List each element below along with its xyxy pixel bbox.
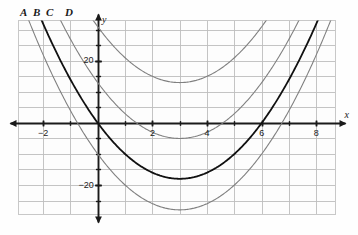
x-tick-label: 2 (150, 129, 155, 138)
y-tick-label: 20 (84, 56, 94, 65)
x-axis-arrow-right (340, 120, 347, 127)
graph-figure: ABCDxy−2246820−20 (0, 0, 358, 235)
parabola-plot-svg (0, 0, 358, 235)
y-axis-arrow-up (95, 14, 102, 21)
x-tick-label: 4 (205, 129, 210, 138)
y-axis-arrow-down (95, 217, 102, 224)
y-axis-name: y (102, 15, 106, 25)
x-axis-arrow-left (10, 120, 17, 127)
grid-lines (19, 21, 336, 215)
curve-label-a: A (20, 7, 27, 18)
curve-label-d: D (65, 7, 73, 18)
curve-label-b: B (33, 7, 40, 18)
y-tick-label: −20 (79, 181, 94, 190)
x-axis-name: x (345, 110, 349, 120)
x-tick-label: 8 (314, 129, 319, 138)
x-tick-label: 6 (259, 129, 264, 138)
curve-label-c: C (46, 7, 53, 18)
x-tick-label: −2 (38, 129, 48, 138)
